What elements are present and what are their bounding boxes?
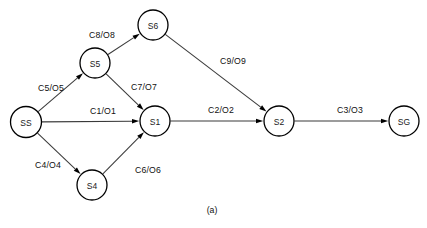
- node-label: S5: [90, 59, 101, 69]
- arrow-head-icon: [132, 119, 139, 124]
- edge-s1-to-s2: [171, 119, 264, 124]
- edge-ss-to-s1: [42, 119, 139, 124]
- node-s1[interactable]: S1: [140, 106, 170, 136]
- edge-line: [42, 121, 132, 122]
- edge-s2-to-sg: [295, 119, 389, 124]
- node-label: SS: [20, 118, 32, 128]
- edge-label-s5-s6: C8/O8: [89, 30, 115, 40]
- edge-label-s6-s2: C9/O9: [220, 56, 246, 66]
- arrow-head-icon: [133, 34, 140, 40]
- node-s2[interactable]: S2: [264, 106, 294, 136]
- edge-label-ss-s5: C5/O5: [38, 83, 64, 93]
- edge-line: [108, 38, 134, 55]
- node-label: S6: [148, 21, 159, 31]
- edge-label-s1-s2: C2/O2: [208, 105, 234, 115]
- edge-label-s5-s1: C7/O7: [131, 82, 157, 92]
- edge-line: [103, 137, 139, 174]
- node-sg[interactable]: SG: [389, 106, 419, 136]
- edge-line: [165, 34, 260, 107]
- edge-s6-to-s2: [165, 34, 266, 111]
- node-s4[interactable]: S4: [77, 170, 107, 200]
- node-s5[interactable]: S5: [80, 48, 110, 78]
- node-label: SG: [398, 117, 410, 127]
- node-label: S2: [274, 117, 285, 127]
- arrow-head-icon: [256, 119, 263, 124]
- node-label: S4: [87, 181, 98, 191]
- figure-canvas: SSS5S6S1S4S2SG C5/O5C1/O1C4/O4C8/O8C7/O7…: [0, 0, 427, 228]
- arrow-head-icon: [381, 119, 388, 124]
- node-s6[interactable]: S6: [138, 10, 168, 40]
- figure-caption: (a): [207, 205, 218, 215]
- state-diagram: SSS5S6S1S4S2SG C5/O5C1/O1C4/O4C8/O8C7/O7…: [0, 0, 427, 228]
- edge-label-s2-sg: C3/O3: [337, 105, 363, 115]
- node-label: S1: [150, 117, 161, 127]
- edge-label-ss-s4: C4/O4: [35, 160, 61, 170]
- edge-label-ss-s1: C1/O1: [90, 106, 116, 116]
- edge-label-s4-s1: C6/O6: [135, 165, 161, 175]
- node-ss[interactable]: SS: [11, 107, 42, 138]
